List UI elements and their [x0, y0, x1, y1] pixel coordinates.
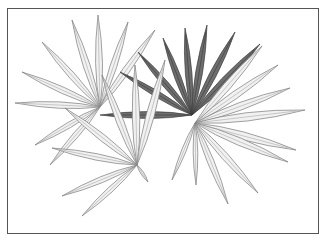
leaf-midrib [174, 123, 195, 175]
leaf-midrib [68, 165, 137, 194]
leaf-midrib [86, 165, 137, 212]
palm-fronds-illustration [0, 0, 324, 241]
leaf-midrib [137, 165, 147, 181]
